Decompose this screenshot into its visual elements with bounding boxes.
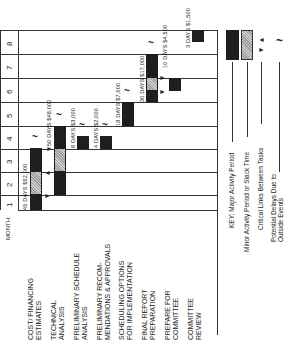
task-label-2: TECHNICAL ANALYSIS — [50, 300, 66, 340]
task-5-bar — [122, 102, 134, 126]
month-label: MONTH: — [5, 216, 11, 240]
task-label-3: PRELIMINARY SCHEDULE ANALYSIS — [73, 253, 89, 340]
grid-row-8-7 — [0, 54, 218, 55]
delay-icon: ~ — [148, 38, 154, 48]
task-label-4: PRELIMINARY RECOM- MENDATIONS & APPROVAL… — [96, 244, 112, 340]
task-2-slack — [55, 149, 65, 171]
legend-minor-label: Minor Activity Period or Slack Time — [243, 152, 250, 252]
delay-icon: ~ — [124, 86, 130, 96]
legend-link-arrow-left: ◄ — [258, 36, 265, 43]
legend-links-label: Critical Links Between Tasks — [257, 148, 264, 230]
grid-row-6-5 — [0, 102, 218, 103]
legend-minor-swatch — [241, 30, 253, 60]
task-label-1: COST/ FINANCING ESTIMATES — [27, 278, 43, 340]
delay-icon: ~ — [102, 120, 108, 130]
grid-bottom — [18, 210, 218, 211]
task-4-bar — [100, 136, 112, 149]
month-column-divider — [18, 30, 19, 210]
task-7-bar — [169, 78, 181, 91]
month-5: 5 — [5, 114, 14, 118]
task-label-7: PREPARE FOR COMMITTEE — [164, 290, 180, 340]
label-area-left — [0, 30, 1, 210]
legend-major-swatch — [226, 30, 239, 60]
month-8: 8 — [5, 42, 14, 46]
task-4-annotation: 4 DAYS $2,000 — [93, 108, 99, 148]
legend-pointer — [261, 62, 262, 124]
task-5-annotation: 18 DAYS $7,000 — [115, 83, 121, 126]
task-8-bar — [192, 30, 204, 42]
critical-link-arrow: ◄ — [44, 169, 51, 176]
grid-row-5-4 — [0, 126, 218, 127]
task-7-annotation: 10 DAYS $4,500 — [162, 25, 168, 68]
task-6-slack — [147, 78, 157, 90]
delay-icon: ~ — [32, 132, 38, 142]
legend-major-label: KEY: Major Activity Period — [228, 153, 235, 228]
grid-right — [217, 30, 218, 335]
legend-pointer — [279, 62, 280, 172]
legend-pointer — [247, 62, 248, 137]
month-4: 4 — [5, 137, 14, 141]
task-label-6: FINAL REPORT PREPARATION — [141, 289, 157, 340]
grid-row-7-6 — [0, 78, 218, 79]
month-7: 7 — [5, 66, 14, 70]
task-1-slack — [31, 172, 41, 194]
month-1: 1 — [5, 203, 14, 207]
task-2-annotation: 50 DAYS $48,000 — [46, 99, 52, 146]
critical-link-arrow: ► — [44, 192, 51, 199]
task-3-bar — [77, 136, 89, 149]
task-6-annotation: 30 DAYS $17,000 — [139, 55, 145, 102]
task-3-annotation: 8 DAYS $3,000 — [70, 108, 76, 148]
critical-link-arrow: ► — [159, 74, 166, 81]
task-label-5: SCHEDULING OPTIONS FOR IMPLEMENTATION — [118, 261, 134, 340]
task-1-annotation: 45 DAYS $52,000 — [22, 163, 28, 210]
critical-link-arrow: ► — [46, 145, 53, 152]
delay-icon: ~ — [56, 110, 62, 120]
critical-link-arrow: ► — [159, 88, 166, 95]
legend-pointer — [232, 62, 233, 142]
legend-delay-icon: ~ — [276, 36, 283, 46]
month-2: 2 — [5, 183, 14, 187]
delay-icon: ~ — [79, 120, 85, 130]
legend-link-arrow-right: ► — [258, 46, 265, 53]
legend-delays-label: Potential Delays Due to Outside Events — [270, 174, 284, 242]
task-label-8: COMMITTEE REVIEW — [187, 298, 203, 340]
task-8-annotation: 3 DAYS $1,500 — [185, 8, 191, 48]
month-6: 6 — [5, 90, 14, 94]
month-3: 3 — [5, 160, 14, 164]
